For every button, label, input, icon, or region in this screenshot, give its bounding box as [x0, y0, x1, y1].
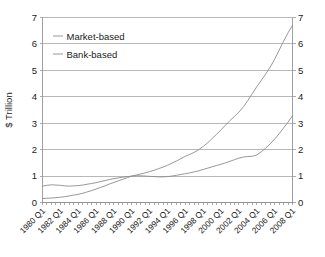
y-axis-label: $ Trillion [3, 92, 14, 127]
y-tick-label-right-3: 3 [298, 118, 303, 129]
y-tick-label-right-6: 6 [298, 38, 303, 49]
chart-container: 0011223344556677$ Trillion1980 Q11982 Q1… [0, 0, 325, 257]
y-tick-label-right-5: 5 [298, 65, 303, 76]
y-tick-label-left-0: 0 [32, 197, 37, 208]
y-tick-label-right-1: 1 [298, 170, 303, 181]
y-tick-label-left-7: 7 [32, 12, 37, 23]
y-tick-label-left-5: 5 [32, 65, 37, 76]
y-tick-label-left-4: 4 [32, 91, 37, 102]
legend-label-bank-based: Bank-based [67, 49, 118, 60]
y-tick-label-left-3: 3 [32, 118, 37, 129]
y-tick-label-right-2: 2 [298, 144, 303, 155]
y-tick-label-right-4: 4 [298, 91, 303, 102]
y-tick-label-left-6: 6 [32, 38, 37, 49]
y-tick-label-left-1: 1 [32, 170, 37, 181]
series-line-bank-based [43, 116, 293, 186]
line-chart: 0011223344556677$ Trillion1980 Q11982 Q1… [0, 0, 325, 257]
y-tick-label-left-2: 2 [32, 144, 37, 155]
y-tick-label-right-0: 0 [298, 197, 303, 208]
y-tick-label-right-7: 7 [298, 12, 303, 23]
legend-label-market-based: Market-based [67, 31, 125, 42]
